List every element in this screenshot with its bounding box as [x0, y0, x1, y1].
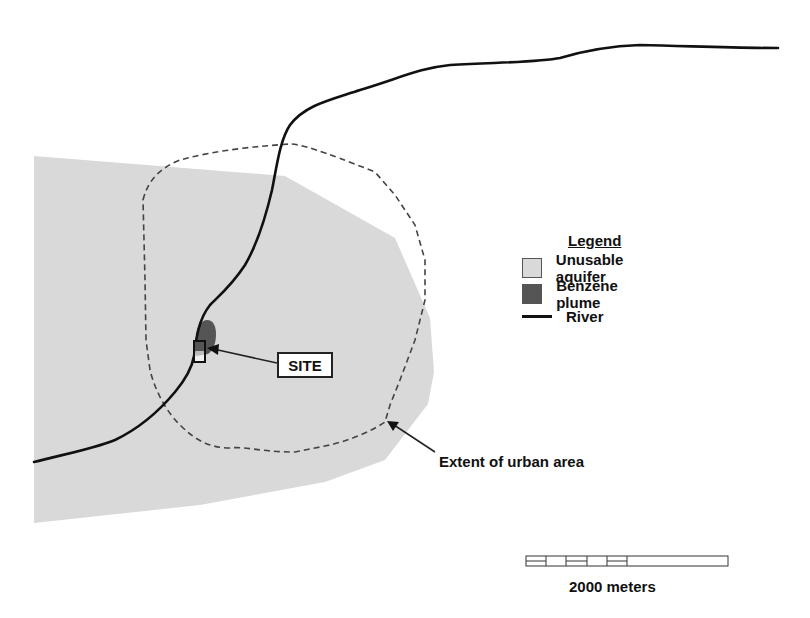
legend-item-benzene-plume: Benzene plume [522, 283, 628, 305]
aquifer-swatch-icon [522, 258, 542, 278]
site-marker-fill [195, 342, 204, 351]
legend-item-river: River [522, 305, 604, 327]
scale-bar-label: 2000 meters [569, 578, 656, 595]
legend-title: Legend [568, 232, 621, 249]
legend-item-label: River [566, 308, 604, 325]
scale-bar [526, 556, 728, 566]
site-label: SITE [277, 352, 333, 378]
urban-area-label: Extent of urban area [439, 453, 584, 470]
map-canvas [0, 0, 810, 618]
unusable-aquifer-area [34, 156, 434, 523]
plume-swatch-icon [522, 284, 542, 304]
river-line-icon [522, 315, 552, 318]
legend-item-unusable-aquifer: Unusable aquifer [522, 257, 634, 279]
